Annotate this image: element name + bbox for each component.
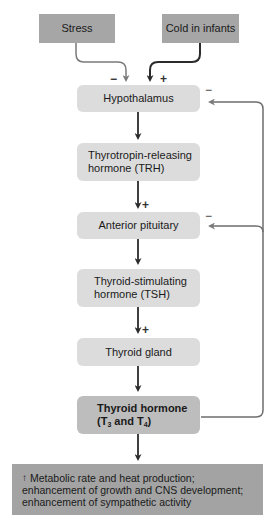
hypothalamus-label: Hypothalamus — [103, 92, 173, 105]
stress-input-box: Stress — [39, 14, 115, 43]
tsh-label-line2: hormone (TSH) — [94, 288, 170, 300]
tsh-stimulate-sign: + — [142, 324, 149, 336]
anterior-pituitary-box: Anterior pituitary — [77, 212, 200, 239]
effects-line1: Metabolic rate and heat production; — [30, 472, 195, 484]
pituitary-feedback-sign: − — [205, 210, 212, 222]
anterior-pituitary-label: Anterior pituitary — [98, 219, 178, 232]
trh-stimulate-sign: + — [142, 199, 149, 211]
stress-inhibit-sign: − — [110, 73, 117, 85]
thyroid-gland-box: Thyroid gland — [77, 338, 200, 366]
increase-arrow-icon: ↑ — [22, 472, 28, 484]
connector-arrows — [0, 0, 278, 529]
cold-in-infants-label: Cold in infants — [166, 22, 236, 35]
trh-label-line1: Thyrotropin-releasing — [88, 149, 192, 161]
physiological-effects-box: ↑Metabolic rate and heat production; enh… — [12, 464, 263, 515]
trh-label-line2: hormone (TRH) — [88, 162, 164, 174]
tsh-box: Thyroid-stimulating hormone (TSH) — [77, 269, 200, 307]
tsh-label-line1: Thyroid-stimulating — [94, 275, 187, 287]
thyroid-hormone-box: Thyroid hormone (T3 and T4) — [77, 396, 200, 434]
effects-line2: enhancement of growth and CNS developmen… — [22, 484, 243, 496]
thyroid-hormone-label-line1: Thyroid hormone — [97, 402, 187, 414]
thyroid-gland-label: Thyroid gland — [105, 346, 172, 359]
hypothalamus-feedback-sign: − — [205, 84, 212, 96]
hypothalamus-box: Hypothalamus — [77, 85, 200, 112]
stress-label: Stress — [61, 22, 92, 35]
trh-box: Thyrotropin-releasing hormone (TRH) — [77, 143, 200, 181]
thyroid-hormone-label-line2: (T3 and T4) — [97, 415, 151, 427]
effects-line3: enhancement of sympathetic activity — [22, 496, 191, 508]
cold-stimulate-sign: + — [160, 73, 167, 85]
cold-in-infants-input-box: Cold in infants — [162, 14, 239, 43]
